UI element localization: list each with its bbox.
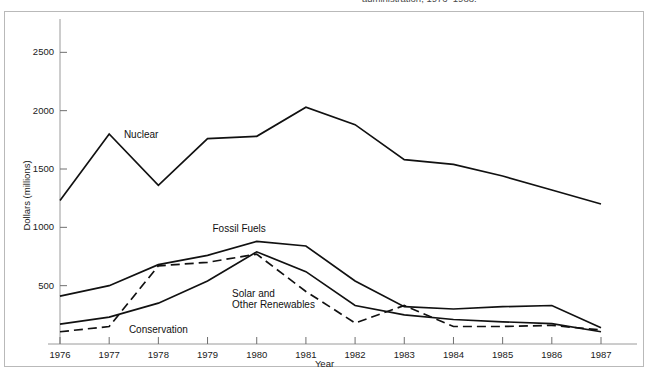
series-label-conservation: Conservation [129, 324, 188, 336]
y-axis-tick-label: 2500 [5, 46, 54, 57]
line-chart-plot [5, 12, 643, 366]
x-axis-title: Year [0, 358, 649, 369]
figure-root: administration, 1976–1988. 5001000150020… [0, 0, 649, 373]
series-label-fossil-fuels: Fossil Fuels [213, 223, 266, 235]
series-label-nuclear: Nuclear [124, 129, 158, 141]
y-axis-title: Dollars (millions) [21, 141, 32, 251]
y-axis-tick-label: 2000 [5, 105, 54, 116]
caption-strip: administration, 1976–1988. [0, 0, 649, 7]
caption-text: administration, 1976–1988. [362, 0, 477, 4]
figure-frame: 5001000150020002500 19761977197819791980… [4, 11, 644, 367]
series-line-nuclear [60, 107, 601, 204]
series-label-solar-and: Solar and Other Renewables [232, 288, 315, 311]
series-line-conservation [60, 254, 601, 332]
y-axis-tick-label: 500 [5, 280, 54, 291]
series-line-fossil-fuels [60, 241, 601, 327]
